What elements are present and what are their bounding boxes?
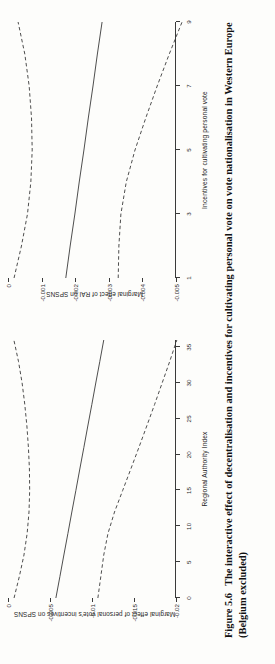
x-tick: [176, 490, 180, 491]
x-tick-label: 35: [185, 344, 192, 351]
y-tick: [50, 598, 51, 602]
x-tick: [176, 418, 180, 419]
x-tick-label: 30: [185, 379, 192, 386]
x-tick: [176, 213, 180, 214]
x-tick-label: 5: [185, 148, 192, 152]
figure-content: 05101520253035 0-0.005-0.01-0.015-0.02 R…: [0, 0, 275, 664]
x-tick: [176, 21, 180, 22]
x-tick-label: 5: [185, 560, 192, 564]
y-tick: [75, 278, 76, 282]
x-tick-label: 9: [185, 20, 192, 24]
y-tick: [42, 278, 43, 282]
y-axis-title-rai: Marginal effect of personal vote's incen…: [7, 611, 183, 618]
x-tick: [176, 346, 180, 347]
x-tick-label: 1: [185, 276, 192, 280]
x-tick-label: 15: [185, 487, 192, 494]
y-tick: [142, 278, 143, 282]
x-tick-label: 7: [185, 84, 192, 88]
series-1: [14, 340, 30, 598]
x-axis-line-incentives: [175, 22, 176, 278]
series-1: [14, 22, 32, 278]
rotated-page-stage: 05101520253035 0-0.005-0.01-0.015-0.02 R…: [0, 0, 275, 664]
x-tick-label: 0: [185, 596, 192, 600]
chart-marginal-effect-rai: 05101520253035 0-0.005-0.01-0.015-0.02 R…: [6, 336, 212, 638]
x-tick-label: 20: [185, 451, 192, 458]
scanned-figure-page: 05101520253035 0-0.005-0.01-0.015-0.02 R…: [0, 0, 275, 664]
y-tick: [176, 598, 177, 602]
x-tick-label: 25: [185, 415, 192, 422]
y-axis-title-holder-rai: Marginal effect of personal vote's incen…: [6, 624, 176, 638]
x-tick: [176, 561, 180, 562]
series-2: [118, 22, 182, 278]
chart-marginal-effect-incentives: 13579 0-0.001-0.002-0.003-0.004-0.005 In…: [6, 18, 212, 318]
x-tick-label: 3: [185, 212, 192, 216]
x-axis-line-rai: [175, 340, 176, 598]
x-tick: [176, 85, 180, 86]
y-tick-label: 0: [5, 604, 12, 607]
series-0: [56, 340, 104, 598]
plot-area-rai: [8, 340, 176, 598]
y-tick: [176, 278, 177, 282]
y-axis-title-incentives: Marginal effect of RAI on SPSNS: [7, 291, 183, 298]
y-tick: [134, 598, 135, 602]
x-axis-title-rai: Regional Authority Index: [201, 340, 208, 598]
figure-caption-line-1: The interactive effect of decentralisati…: [223, 58, 234, 586]
x-tick: [176, 149, 180, 150]
x-tick: [176, 525, 180, 526]
y-tick: [109, 278, 110, 282]
series-2: [98, 340, 177, 598]
y-tick: [8, 278, 9, 282]
figure-number-label: Figure 5.6: [223, 593, 234, 638]
plot-area-incentives: [8, 22, 176, 278]
curves-rai: [8, 340, 176, 598]
x-tick-label: 10: [185, 523, 192, 530]
y-axis-title-holder-incentives: Marginal effect of RAI on SPSNS: [6, 304, 176, 318]
x-tick: [176, 382, 180, 383]
series-0: [66, 22, 102, 278]
y-tick: [92, 598, 93, 602]
y-tick-label: 0: [5, 284, 12, 287]
curves-incentives: [8, 22, 176, 278]
figure-caption: Figure 5.6The interactive effect of dece…: [222, 18, 249, 638]
x-tick: [176, 454, 180, 455]
y-tick: [8, 598, 9, 602]
x-axis-title-incentives: Incentives for cultivating personal vote: [201, 22, 208, 278]
